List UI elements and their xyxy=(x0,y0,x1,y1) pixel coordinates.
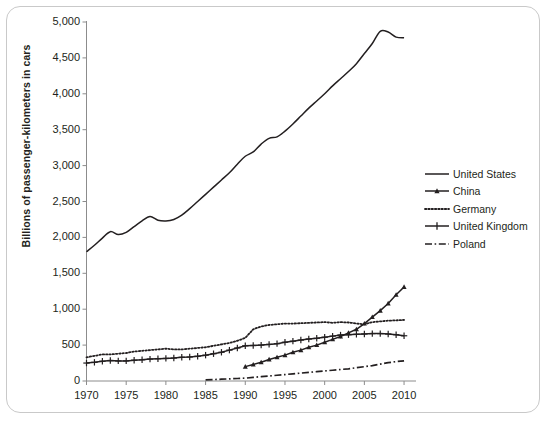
series-poland xyxy=(206,361,404,380)
y-axis-tick-label: 3,500 xyxy=(34,124,80,135)
x-axis-tick-label: 1995 xyxy=(263,389,307,401)
legend-item-label: United States xyxy=(453,168,516,180)
x-axis-tick-label: 1975 xyxy=(104,389,148,401)
legend-item-germany[interactable]: Germany xyxy=(424,200,546,218)
x-axis-tick-labels: 197019751980198519901995200020052010 xyxy=(0,389,548,405)
series-united-kingdom xyxy=(83,330,407,366)
legend-swatch-icon xyxy=(424,237,450,251)
legend-swatch-icon xyxy=(424,202,450,216)
x-axis-tick-label: 1990 xyxy=(223,389,267,401)
y-axis-tick-labels: 5,0004,5004,0003,5003,0002,5002,0001,500… xyxy=(32,0,80,421)
y-axis-tick-label: 0 xyxy=(34,375,80,386)
chart-figure: Billions of passenger-kilometers in cars… xyxy=(0,0,548,421)
y-axis-tick-label: 4,500 xyxy=(34,52,80,63)
series-china xyxy=(243,284,407,368)
x-axis-tick-label: 2005 xyxy=(342,389,386,401)
legend-item-poland[interactable]: Poland xyxy=(424,235,546,253)
legend-item-label: China xyxy=(453,185,480,197)
y-axis-tick-label: 3,000 xyxy=(34,160,80,171)
chart-legend: United StatesChinaGermanyUnited KingdomP… xyxy=(424,165,546,253)
x-axis-tick-label: 1980 xyxy=(144,389,188,401)
y-axis-tick-label: 1,500 xyxy=(34,267,80,278)
legend-item-label: United Kingdom xyxy=(453,220,528,232)
y-axis-title: Billions of passenger-kilometers in cars xyxy=(20,36,32,256)
legend-item-united-states[interactable]: United States xyxy=(424,165,546,183)
legend-item-label: Poland xyxy=(453,238,486,250)
y-axis-tick-label: 5,000 xyxy=(34,16,80,27)
y-axis-tick-label: 2,000 xyxy=(34,231,80,242)
legend-item-united-kingdom[interactable]: United Kingdom xyxy=(424,218,546,236)
series-united-states xyxy=(87,30,405,251)
y-axis-tick-label: 1,000 xyxy=(34,303,80,314)
y-axis-tick-label: 2,500 xyxy=(34,196,80,207)
x-axis-tick-label: 1985 xyxy=(184,389,228,401)
legend-item-label: Germany xyxy=(453,203,496,215)
legend-swatch-icon xyxy=(424,219,450,233)
legend-swatch-icon xyxy=(424,167,450,181)
legend-swatch-icon xyxy=(424,184,450,198)
y-axis-tick-label: 4,000 xyxy=(34,88,80,99)
x-axis-tick-label: 2010 xyxy=(382,389,426,401)
x-axis-tick-label: 1970 xyxy=(65,389,109,401)
y-axis-tick-label: 500 xyxy=(34,339,80,350)
series-germany xyxy=(87,320,405,357)
legend-item-china[interactable]: China xyxy=(424,183,546,201)
x-axis-tick-label: 2000 xyxy=(303,389,347,401)
